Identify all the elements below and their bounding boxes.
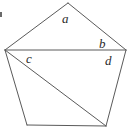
diagonal-left-to-bottom-right [5, 50, 106, 126]
angle-label-d: d [105, 54, 112, 67]
edge-left-upper [5, 3, 68, 50]
angle-label-a: a [62, 12, 69, 25]
edge-left-lower [5, 50, 27, 125]
edge-right-upper [68, 3, 126, 50]
corner-tick-mark [0, 12, 2, 17]
edge-bottom [27, 125, 106, 126]
angle-label-c: c [26, 52, 32, 65]
geometry-figure: a b c d [0, 0, 133, 132]
angle-label-b: b [99, 37, 106, 50]
